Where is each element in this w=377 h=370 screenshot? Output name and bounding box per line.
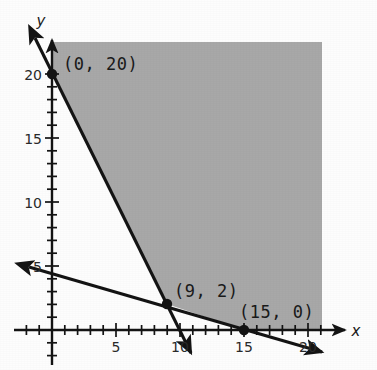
point-label-0-20: (0, 20) [63, 54, 138, 74]
y-axis-label: y [36, 12, 47, 30]
point-marker-0-20 [47, 69, 57, 79]
y-tick-label-15: 15 [24, 131, 42, 147]
y-tick-label-20: 20 [24, 67, 42, 83]
x-tick-label-5: 5 [112, 339, 121, 355]
x-tick-label-15: 15 [235, 339, 253, 355]
point-marker-9-2 [162, 299, 172, 309]
x-tick-label-10: 10 [171, 339, 189, 355]
x-tick-label-20: 20 [299, 339, 317, 355]
y-tick-label-10: 10 [24, 195, 42, 211]
point-marker-15-0 [239, 325, 249, 335]
x-axis-label: x [351, 322, 361, 340]
graph-canvas: y x 5 10 15 20 5 10 15 20 (0, 20) (9, 2)… [0, 0, 377, 370]
coordinate-graph: y x 5 10 15 20 5 10 15 20 (0, 20) (9, 2)… [0, 0, 377, 370]
y-tick-label-5: 5 [33, 259, 42, 275]
point-label-9-2: (9, 2) [174, 281, 238, 301]
point-label-15-0: (15, 0) [239, 302, 314, 322]
